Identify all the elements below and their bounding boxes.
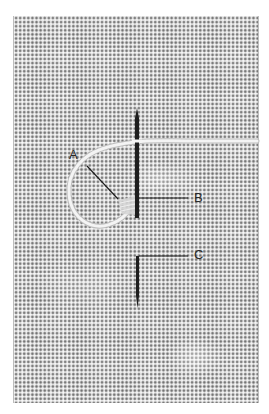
label-a: A [69,148,78,161]
label-b: B [194,191,203,204]
stitch-diagram: A B C [0,0,269,414]
label-c: C [194,248,203,261]
stitch-wrap [118,196,136,215]
needle-lower [136,256,139,308]
thread [69,141,257,226]
leader-line-a [87,166,118,199]
stitch-artwork [0,0,269,414]
needle-upper [135,108,139,218]
